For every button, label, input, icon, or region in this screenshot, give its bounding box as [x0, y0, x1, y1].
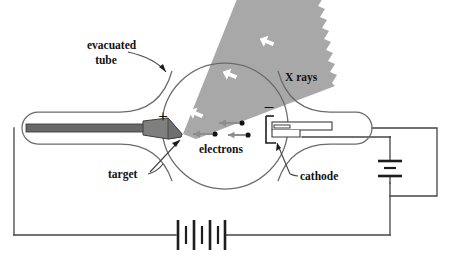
label-evacuated-tube-line1: evacuated — [87, 39, 137, 51]
label-evacuated-tube-line2: tube — [95, 54, 117, 66]
label-target: target — [108, 168, 138, 181]
label-cathode: cathode — [300, 170, 338, 182]
x-ray-beam — [150, 0, 400, 180]
xray-tube-diagram: evacuated tube X rays electrons target c… — [0, 0, 451, 256]
label-minus-sign: – — [264, 96, 274, 115]
figure-canvas: evacuated tube X rays electrons target c… — [0, 0, 451, 256]
leader-evacuated-tube — [128, 52, 166, 72]
label-x-rays: X rays — [285, 71, 318, 84]
electron-dot-1 — [239, 120, 244, 125]
filament-battery — [378, 161, 402, 176]
main-battery — [178, 220, 225, 250]
label-plus-sign: + — [158, 107, 168, 126]
electron-arrow-3 — [228, 132, 251, 138]
leader-cathode-stub — [290, 174, 298, 176]
electron-dot-3 — [245, 132, 250, 137]
anode-rod — [26, 124, 146, 132]
electron-dot-2 — [212, 131, 217, 136]
label-electrons: electrons — [199, 143, 243, 155]
cathode-assembly — [266, 116, 332, 143]
